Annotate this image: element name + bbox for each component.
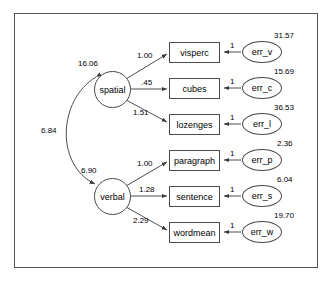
indicator-wordmean[interactable]: wordmean [169,222,220,243]
indicator-wordmean-label: wordmean [173,228,215,238]
unit-path-label-err_w: 1 [230,221,234,230]
error-term-err_v[interactable]: err_v [242,41,282,63]
indicator-sentence-label: sentence [176,192,213,202]
unit-path-label-err_s: 1 [230,185,234,194]
unit-path-label-err_v: 1 [230,41,234,50]
error-term-err_c[interactable]: err_c [242,77,282,99]
indicator-cubes-label: cubes [182,84,206,94]
loading-paragraph: 1.00 [137,159,153,168]
error-term-err_p[interactable]: err_p [242,149,282,171]
unit-path-label-err_c: 1 [230,77,234,86]
indicator-lozenges-label: lozenges [176,120,212,130]
error-variance-err_c: 15.69 [274,67,294,76]
variance-verbal: 6.90 [81,166,97,175]
error-variance-err_p: 2.36 [277,139,293,148]
error-variance-err_s: 6.04 [277,175,293,184]
loading-cubes: .45 [141,78,152,87]
error-term-err_s[interactable]: err_s [242,185,282,207]
loading-sentence: 1.28 [139,185,155,194]
latent-spatial-label: spatial [99,85,125,95]
indicator-visperc[interactable]: visperc [169,42,220,63]
latent-spatial[interactable]: spatial [94,71,131,108]
loading-lozenges: 1.51 [133,108,149,117]
indicator-paragraph[interactable]: paragraph [169,150,220,171]
latent-verbal[interactable]: verbal [94,178,131,215]
indicator-visperc-label: visperc [180,48,209,58]
error-variance-err_w: 19.70 [274,211,294,220]
variance-spatial: 16.06 [78,59,98,68]
error-term-err_v-label: err_v [252,47,273,57]
loading-wordmean: 2.29 [133,216,149,225]
covariance-label: 6.84 [41,126,57,135]
error-term-err_l[interactable]: err_l [242,113,282,135]
indicator-cubes[interactable]: cubes [169,78,220,99]
latent-verbal-label: verbal [100,192,125,202]
error-term-err_c-label: err_c [252,83,273,93]
error-term-err_p-label: err_p [251,155,272,165]
unit-path-label-err_l: 1 [230,113,234,122]
loading-visperc: 1.00 [137,51,153,60]
error-variance-err_v: 31.57 [274,31,294,40]
error-term-err_w[interactable]: err_w [242,221,282,243]
error-term-err_s-label: err_s [252,191,273,201]
indicator-sentence[interactable]: sentence [169,186,220,207]
unit-path-label-err_p: 1 [230,149,234,158]
error-variance-err_l: 36.53 [274,103,294,112]
indicator-paragraph-label: paragraph [174,156,215,166]
error-term-err_l-label: err_l [253,119,271,129]
indicator-lozenges[interactable]: lozenges [169,114,220,135]
error-term-err_w-label: err_w [251,227,274,237]
